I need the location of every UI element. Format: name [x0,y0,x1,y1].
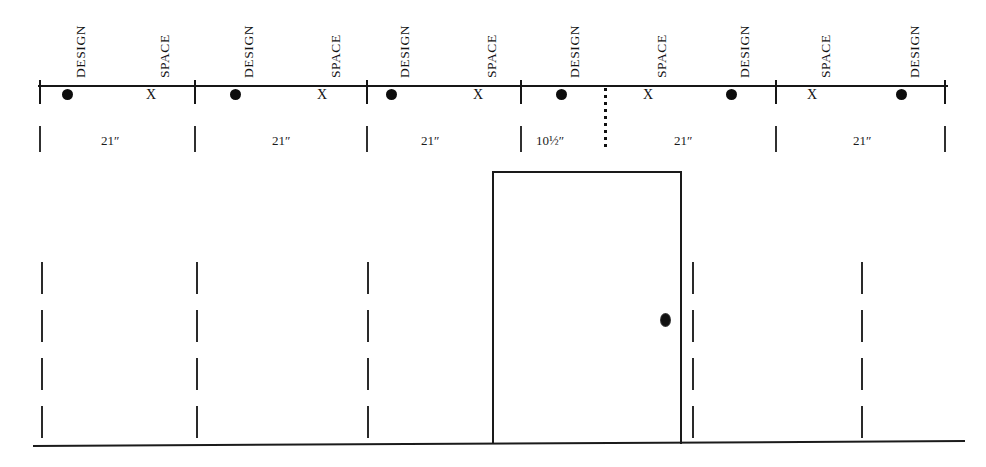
space-marker-x-icon-5: X [473,88,483,102]
dimension-label-5: 21″ [853,134,871,147]
scale-tick-3 [520,80,522,104]
stud-dashed-line-2 [196,262,198,454]
space-marker-x-icon-7: X [643,88,653,102]
break-dotted-line [604,88,607,151]
dimension-label-2: 21″ [421,134,439,147]
stud-dashed-line-6 [861,262,863,454]
dimension-tick-3 [520,126,522,152]
dimension-label-3: 10½″ [536,134,564,147]
dimension-label-1: 21″ [272,134,290,147]
space-marker-x-icon-9: X [807,88,817,102]
door-opening [492,171,682,444]
scale-tick-4 [775,80,777,104]
stud-dashed-line-5 [692,262,694,454]
dimension-tick-0 [39,126,41,152]
design-marker-dot-icon-4 [386,89,397,100]
space-marker-x-icon-1: X [146,88,156,102]
scale-tick-1 [194,80,196,104]
dimension-tick-1 [194,126,196,152]
dimension-label-0: 21″ [101,134,119,147]
scale-tick-2 [366,80,368,104]
dimension-tick-5 [944,126,946,152]
design-marker-dot-icon-6 [556,89,567,100]
stud-dashed-line-1 [41,262,43,454]
design-marker-dot-icon-8 [726,89,737,100]
stud-dashed-line-3 [367,262,369,454]
dimension-tick-2 [366,126,368,152]
doorknob-icon [661,314,670,326]
space-marker-x-icon-3: X [317,88,327,102]
design-marker-dot-icon-2 [230,89,241,100]
dimension-label-4: 21″ [674,134,692,147]
scale-tick-0 [39,80,41,104]
diagram-canvas: DESIGNSPACEXDESIGNSPACEXDESIGNSPACEXDESI… [0,0,986,467]
design-marker-dot-icon-0 [62,89,73,100]
design-marker-dot-icon-10 [896,89,907,100]
scale-tick-5 [944,80,946,104]
dimension-tick-4 [775,126,777,152]
